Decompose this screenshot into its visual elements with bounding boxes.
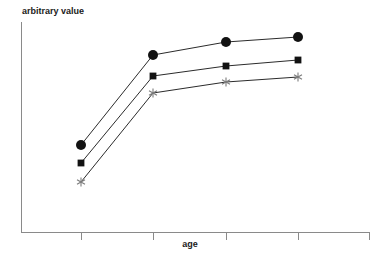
series-markers-asterisk [77, 72, 302, 186]
series-line-square [81, 60, 298, 163]
series-line-asterisk [81, 77, 298, 182]
series-line-circle [81, 37, 298, 145]
data-point-square-2 [150, 73, 157, 80]
data-point-circle-3 [221, 37, 231, 47]
data-point-circle-4 [293, 32, 303, 42]
data-point-square-4 [295, 57, 302, 64]
series-lines [81, 37, 298, 182]
series-markers-circle [76, 32, 303, 150]
series-markers-square [78, 57, 302, 167]
chart-screenshot: arbitrary value age [0, 0, 379, 263]
x-axis-ticks [82, 233, 370, 240]
x-axis-label: age [182, 239, 198, 249]
data-point-square-3 [223, 63, 230, 70]
data-point-circle-2 [148, 50, 158, 60]
data-point-square-1 [78, 160, 85, 167]
y-axis-label: arbitrary value [22, 6, 84, 16]
line-chart: arbitrary value age [0, 0, 379, 263]
data-point-circle-1 [76, 140, 86, 150]
